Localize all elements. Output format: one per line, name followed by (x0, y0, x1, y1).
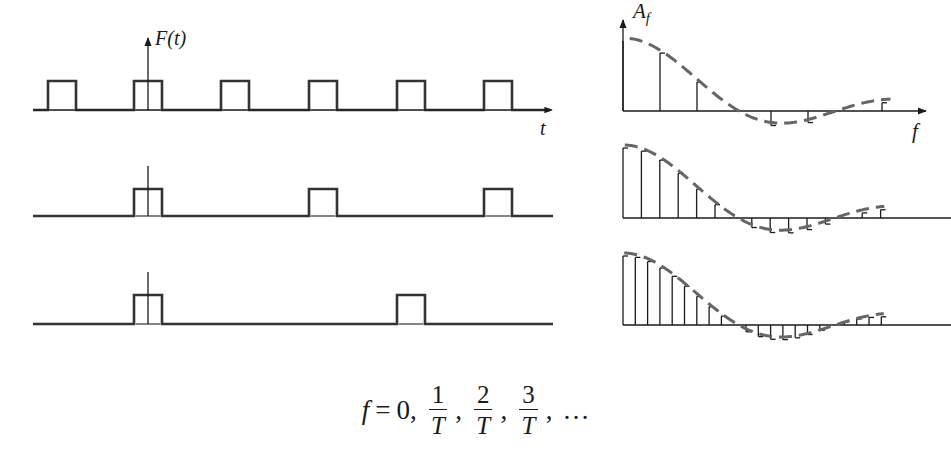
formula-zero: 0, (396, 395, 416, 426)
frequency-variable-label: f (912, 119, 921, 143)
fraction-1-over-T: 1 T (429, 382, 448, 438)
pulse-train-row-3 (33, 272, 553, 324)
pulse-waveform (33, 81, 550, 110)
amplitude-subscript: f (646, 10, 652, 26)
pulse-waveform (33, 189, 553, 216)
formula-equals: = (375, 395, 390, 426)
spectrum-row-2 (623, 145, 951, 233)
pulse-train-row-1 (33, 38, 552, 110)
harmonic-frequency-formula: f = 0, 1 T , 2 T , 3 T , … (0, 382, 951, 438)
frequency-spectrum-panels (623, 20, 951, 340)
formula-ellipsis: … (562, 395, 589, 426)
time-domain-panels (33, 38, 553, 324)
fraction-2-over-T: 2 T (474, 382, 493, 438)
time-variable-label: t (540, 117, 546, 139)
spectrum-row-1 (623, 20, 926, 125)
time-axis-label: F(t) (154, 27, 186, 50)
pulse-train-row-2 (33, 166, 553, 216)
fraction-3-over-T: 3 T (519, 382, 538, 438)
spectrum-row-3 (623, 253, 951, 340)
formula-f: f (362, 395, 370, 426)
amplitude-axis-label: Af (631, 0, 652, 26)
pulse-waveform (33, 295, 553, 324)
